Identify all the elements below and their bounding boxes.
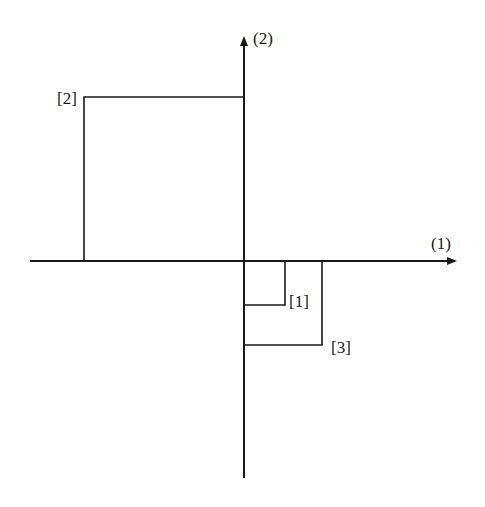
point-3-guides bbox=[244, 261, 322, 345]
point-3-label: [3] bbox=[331, 339, 351, 356]
diagram-canvas bbox=[0, 0, 485, 507]
vertical-axis-label: (2) bbox=[253, 30, 273, 47]
horizontal-axis-label: (1) bbox=[431, 235, 451, 252]
point-1-label: [1] bbox=[289, 293, 309, 310]
point-2-label: [2] bbox=[57, 90, 77, 107]
point-1-guides bbox=[244, 261, 285, 305]
point-2-guides bbox=[84, 97, 244, 261]
